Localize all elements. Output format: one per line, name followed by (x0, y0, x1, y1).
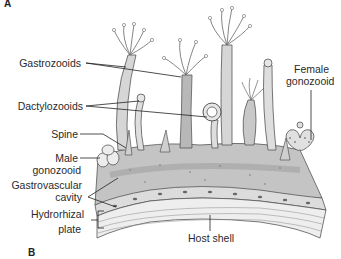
label-gastrovascular-line1: Gastrovascular (11, 179, 82, 191)
label-male-gonozooid-line1: Male (55, 152, 78, 164)
label-male-gonozooid-line2: gonozooid (33, 164, 81, 176)
label-female-gonozooid-line2: gonozooid (286, 75, 334, 87)
label-dactylozooids: Dactylozooids (18, 100, 83, 112)
label-female-gonozooid-line1: Female (294, 63, 329, 75)
label-gastrozooids: Gastrozooids (19, 57, 81, 69)
label-hydrorhizal-line1: Hydrorhizal (31, 208, 84, 220)
label-gastrovascular-line2: cavity (55, 191, 82, 203)
label-hydrorhizal-line2: plate (58, 223, 81, 235)
label-spine: Spine (51, 128, 78, 140)
label-host-shell: Host shell (188, 232, 234, 244)
panel-label-b: B (28, 247, 35, 258)
